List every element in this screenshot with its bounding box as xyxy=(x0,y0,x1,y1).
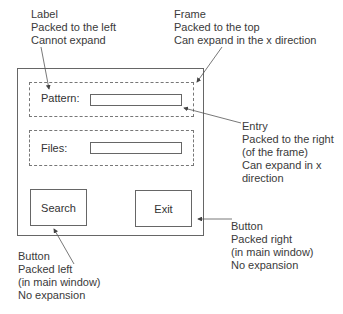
annotation-frame: Frame Packed to the top Can expand in th… xyxy=(174,8,316,47)
annotation-line: Can expand in x xyxy=(242,159,334,172)
annotation-line: Can expand in the x direction xyxy=(174,34,316,47)
annotation-line: direction xyxy=(242,172,334,185)
annotation-line: No expansion xyxy=(231,259,314,272)
exit-button[interactable]: Exit xyxy=(135,190,192,227)
annotation-line: (of the frame) xyxy=(242,146,334,159)
files-entry[interactable] xyxy=(90,142,182,154)
annotation-line: Cannot expand xyxy=(31,34,116,47)
pattern-label: Pattern: xyxy=(41,92,80,104)
pattern-entry[interactable] xyxy=(90,94,182,106)
annotation-line: (in main window) xyxy=(231,246,314,259)
annotation-line: Label xyxy=(31,8,116,21)
annotation-line: Packed to the left xyxy=(31,21,116,34)
annotation-line: Button xyxy=(18,250,101,263)
annotation-label: Label Packed to the left Cannot expand xyxy=(31,8,116,47)
annotation-button-right: Button Packed right (in main window) No … xyxy=(231,220,314,272)
annotation-button-left: Button Packed left (in main window) No e… xyxy=(18,250,101,302)
annotation-line: Entry xyxy=(242,120,334,133)
annotation-entry: Entry Packed to the right (of the frame)… xyxy=(242,120,334,185)
annotation-line: Packed right xyxy=(231,233,314,246)
search-button[interactable]: Search xyxy=(30,189,87,226)
annotation-line: Packed left xyxy=(18,263,101,276)
files-label: Files: xyxy=(41,142,67,154)
annotation-line: Packed to the right xyxy=(242,133,334,146)
annotation-line: (in main window) xyxy=(18,276,101,289)
annotation-line: Frame xyxy=(174,8,316,21)
annotation-line: No expansion xyxy=(18,289,101,302)
annotation-line: Packed to the top xyxy=(174,21,316,34)
annotation-line: Button xyxy=(231,220,314,233)
